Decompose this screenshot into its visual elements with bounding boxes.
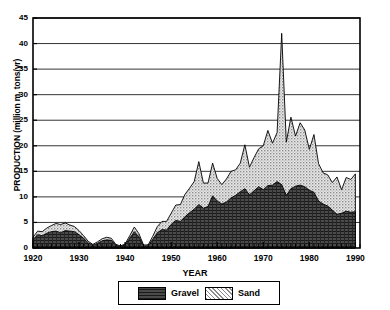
- legend-label-gravel: Gravel: [171, 288, 199, 298]
- chart-legend: Gravel Sand: [118, 281, 280, 305]
- chart-figure: PRODUCTION (million m. tons/yr) YEAR 051…: [0, 0, 390, 310]
- legend-item-gravel: Gravel: [138, 287, 199, 300]
- legend-swatch-sand: [205, 287, 233, 300]
- legend-item-sand: Sand: [205, 287, 260, 300]
- legend-label-sand: Sand: [238, 288, 260, 298]
- legend-swatch-gravel: [138, 287, 166, 300]
- plot-area: [0, 0, 390, 310]
